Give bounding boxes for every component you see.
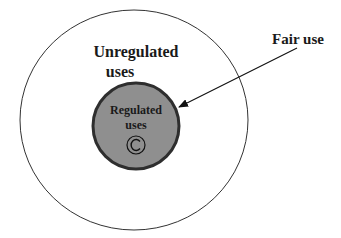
fair-use-diagram: Unregulated uses Regulated uses Fair use bbox=[0, 0, 341, 238]
inner-label-line1: Regulated bbox=[110, 103, 162, 117]
inner-label-line2: uses bbox=[125, 118, 147, 132]
outer-label-line1: Unregulated bbox=[93, 43, 178, 61]
fair-use-arrow bbox=[179, 48, 297, 107]
outer-label-line2: uses bbox=[106, 63, 134, 80]
fair-use-label: Fair use bbox=[272, 31, 324, 47]
